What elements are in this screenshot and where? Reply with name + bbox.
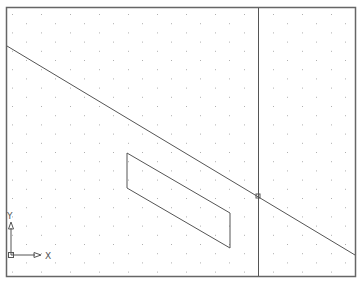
parallelogram-shape[interactable] (127, 153, 230, 248)
y-axis-label: Y (6, 211, 13, 221)
x-arrow-icon (34, 253, 41, 258)
x-axis-label: X (45, 251, 51, 261)
grid-dots (12, 14, 346, 273)
drawing-canvas[interactable]: Y X (0, 0, 362, 281)
diagonal-line[interactable] (7, 46, 355, 255)
y-arrow-icon (9, 222, 14, 229)
viewport-border (7, 8, 356, 277)
